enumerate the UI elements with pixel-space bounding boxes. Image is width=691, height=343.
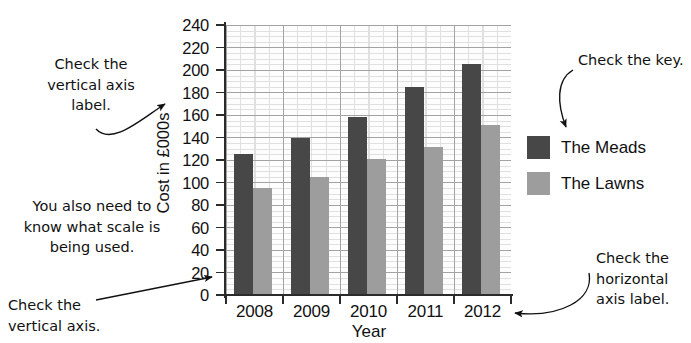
y-tick-220 — [216, 47, 226, 49]
x-tick-2 — [339, 295, 341, 304]
bar-the-lawns-2012 — [481, 125, 500, 295]
y-tick-label-120: 120 — [182, 151, 209, 170]
y-tick-80 — [216, 204, 226, 206]
note-vertical-axis-label: Check the vertical axis label. — [16, 54, 166, 116]
x-tick-label-2012: 2012 — [464, 302, 501, 322]
bar-the-meads-2011 — [405, 87, 424, 295]
y-tick-100 — [216, 182, 226, 184]
y-tick-40 — [216, 249, 226, 251]
y-tick-label-0: 0 — [200, 286, 209, 305]
bar-the-lawns-2011 — [424, 147, 443, 296]
y-tick-200 — [216, 69, 226, 71]
bar-the-lawns-2008 — [253, 188, 272, 295]
legend-swatch-icon-meads — [527, 136, 550, 159]
legend-swatch-icon-lawns — [527, 172, 550, 195]
x-tick-4 — [453, 295, 455, 304]
x-axis-line — [224, 294, 513, 296]
x-tick-3 — [396, 295, 398, 304]
y-tick-label-80: 80 — [191, 196, 209, 215]
y-tick-160 — [216, 114, 226, 116]
note-vertical-axis: Check the vertical axis. — [8, 295, 158, 336]
note-key: Check the key. — [578, 50, 691, 71]
chart-legend: The Meads The Lawns — [527, 133, 646, 205]
arrow-to-x-axis-label — [515, 273, 589, 314]
y-tick-label-200: 200 — [182, 61, 209, 80]
y-tick-240 — [216, 24, 226, 26]
note-scale: You also need to know what scale is bein… — [8, 196, 176, 258]
y-tick-60 — [216, 227, 226, 229]
x-tick-label-2008: 2008 — [236, 302, 273, 322]
y-tick-label-40: 40 — [191, 241, 209, 260]
x-tick-0 — [225, 295, 227, 304]
y-tick-label-220: 220 — [182, 38, 209, 57]
x-tick-1 — [282, 295, 284, 304]
y-tick-180 — [216, 92, 226, 94]
x-tick-5 — [510, 295, 512, 304]
chart-figure: 020406080100120140160180200220240 200820… — [0, 0, 691, 343]
y-tick-label-160: 160 — [182, 106, 209, 125]
y-tick-label-100: 100 — [182, 173, 209, 192]
y-tick-label-20: 20 — [191, 263, 209, 282]
x-tick-label-2009: 2009 — [293, 302, 330, 322]
y-tick-label-180: 180 — [182, 83, 209, 102]
bar-the-meads-2010 — [348, 117, 367, 295]
legend-label-meads: The Meads — [561, 138, 646, 158]
arrow-to-legend — [560, 70, 573, 127]
x-axis-label: Year — [352, 322, 386, 342]
legend-item-meads: The Meads — [527, 133, 646, 162]
bar-the-lawns-2010 — [367, 159, 386, 295]
bar-the-meads-2008 — [234, 154, 253, 295]
bar-the-meads-2009 — [291, 138, 310, 296]
bar-the-meads-2012 — [462, 64, 481, 295]
legend-item-lawns: The Lawns — [527, 169, 646, 198]
x-tick-label-2010: 2010 — [350, 302, 387, 322]
y-tick-label-240: 240 — [182, 16, 209, 35]
bar-the-lawns-2009 — [310, 177, 329, 295]
y-tick-label-60: 60 — [191, 218, 209, 237]
x-tick-label-2011: 2011 — [408, 302, 444, 322]
y-tick-140 — [216, 137, 226, 139]
y-tick-120 — [216, 159, 226, 161]
y-tick-20 — [216, 272, 226, 274]
plot-area — [226, 25, 511, 295]
y-tick-label-140: 140 — [182, 128, 209, 147]
note-horizontal-axis-label: Check the horizontal axis label. — [596, 248, 691, 310]
legend-label-lawns: The Lawns — [561, 174, 644, 194]
